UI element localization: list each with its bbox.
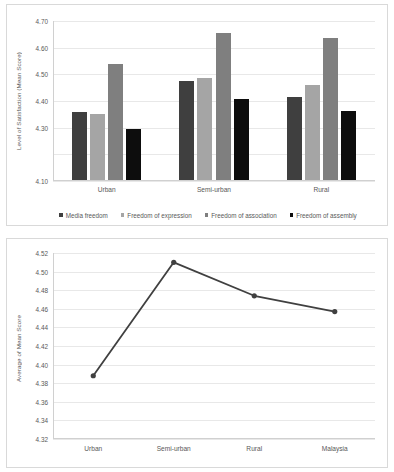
x-tick-label: Urban	[98, 186, 116, 193]
bar	[197, 78, 212, 181]
bar-chart-y-axis-line	[53, 21, 54, 181]
x-tick-label: Malaysia	[322, 445, 348, 452]
legend-label: Media freedom	[66, 212, 108, 219]
y-tick-label: 4.48	[26, 287, 48, 294]
bar	[234, 99, 249, 181]
x-tick-label: Semi-urban	[197, 186, 231, 193]
bar	[179, 81, 194, 181]
y-tick-label: 4.50	[26, 71, 48, 78]
y-tick-label: 4.38	[26, 380, 48, 387]
bar	[341, 111, 356, 181]
legend-item[interactable]: Freedom of association	[205, 212, 277, 219]
x-tick-label: Rural	[246, 445, 262, 452]
bar	[126, 129, 141, 181]
legend-label: Freedom of association	[211, 212, 276, 219]
bar-chart-legend: Media freedomFreedom of expressionFreedo…	[37, 209, 379, 221]
y-tick-label: 4.50	[26, 268, 48, 275]
legend-item[interactable]: Freedom of expression	[121, 212, 192, 219]
y-tick-label: 4.70	[26, 18, 48, 25]
x-tick-label: Urban	[84, 445, 102, 452]
y-tick-label: 4.42	[26, 343, 48, 350]
y-tick-label: 4.60	[26, 44, 48, 51]
y-tick-label: 4.40	[26, 361, 48, 368]
line-chart-series	[53, 253, 375, 439]
line-path	[93, 262, 335, 375]
legend-label: Freedom of expression	[127, 212, 191, 219]
gridline	[53, 181, 375, 182]
y-tick-label: 4.52	[26, 250, 48, 257]
legend-item[interactable]: Media freedom	[59, 212, 108, 219]
bar-chart-panel: Level of Satisfaction (Mean Score) 4.704…	[6, 4, 388, 226]
bar	[108, 64, 123, 181]
y-tick-label: 4.30	[26, 124, 48, 131]
bar	[72, 112, 87, 181]
bar-chart-y-axis-label: Level of Satisfaction (Mean Score)	[15, 21, 22, 181]
data-point-marker	[252, 293, 257, 298]
y-tick-label: 4.34	[26, 417, 48, 424]
bar-chart-plot-area: 4.704.604.504.404.304.10 UrbanSemi-urban…	[53, 21, 375, 181]
x-tick-label: Rural	[313, 186, 329, 193]
bar	[90, 114, 105, 181]
y-tick-label: 4.32	[26, 436, 48, 443]
y-tick-label: 4.46	[26, 305, 48, 312]
gridline	[53, 439, 375, 440]
y-tick-label: 4.10	[26, 178, 48, 185]
legend-swatch-icon	[121, 213, 125, 217]
bar	[323, 38, 338, 181]
bar-chart-x-axis-line	[53, 180, 375, 181]
legend-swatch-icon	[290, 213, 294, 217]
bar	[305, 85, 320, 181]
legend-item[interactable]: Freedom of assembly	[290, 212, 357, 219]
gridline	[53, 21, 375, 22]
x-tick-label: Semi-urban	[157, 445, 191, 452]
y-tick-label: 4.36	[26, 398, 48, 405]
legend-label: Freedom of assembly	[296, 212, 357, 219]
data-point-marker	[91, 373, 96, 378]
y-tick-label: 4.40	[26, 98, 48, 105]
legend-swatch-icon	[205, 213, 209, 217]
y-tick-label: 4.44	[26, 324, 48, 331]
line-chart-plot-area: 4.524.504.484.464.444.424.404.384.364.34…	[53, 253, 375, 439]
data-point-marker	[171, 260, 176, 265]
bar	[287, 97, 302, 181]
legend-swatch-icon	[59, 213, 63, 217]
line-chart-y-axis-label: Average of Mean Score	[15, 279, 22, 419]
line-chart-panel: Average of Mean Score 4.524.504.484.464.…	[6, 238, 388, 468]
data-point-marker	[332, 309, 337, 314]
bar	[216, 33, 231, 181]
